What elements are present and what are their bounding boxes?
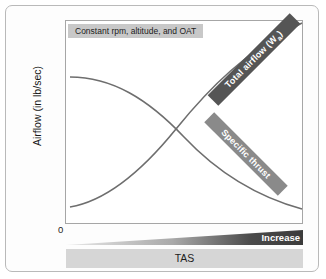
y-axis-label: Airflow (in lb/sec) <box>31 36 43 176</box>
x-axis-origin-label: 0 <box>58 224 63 235</box>
chart-caption: Constant rpm, altitude, and OAT <box>68 24 203 38</box>
curve-specific-thrust <box>70 77 302 209</box>
airflow-vs-tas-figure: Constant rpm, altitude, and OAT Airflow … <box>0 0 326 279</box>
x-axis-increase-label: Increase <box>261 230 300 245</box>
x-axis-increase-strip: Increase <box>66 230 303 245</box>
x-axis-tas-band: TAS <box>66 249 303 268</box>
